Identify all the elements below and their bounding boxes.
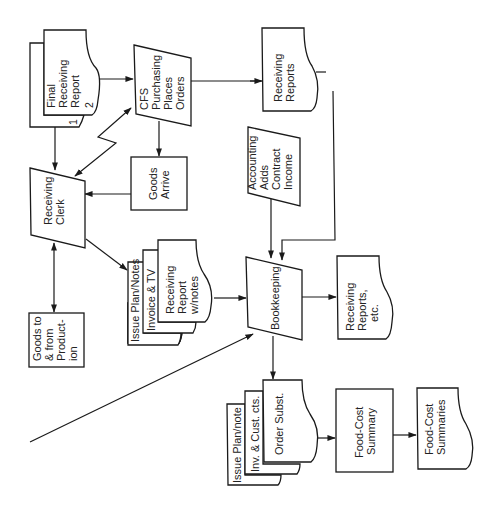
node-label-line: Receiving: [42, 177, 54, 225]
node-label-line: Places: [162, 76, 174, 110]
node-label-line: Report: [69, 75, 81, 108]
node-label-line: Receiving: [164, 266, 176, 314]
node-label-line: Reports: [284, 63, 296, 102]
node-label-line: Orders: [174, 76, 186, 110]
node-receiving-reports-etc[interactable]: Receiving Reports, etc.: [337, 256, 393, 339]
node-label-line: Summary: [365, 407, 377, 455]
node-label-line: Final: [45, 84, 57, 108]
node-label-line: w/notes: [188, 276, 200, 315]
layer-label: Issue Plan/note: [231, 407, 243, 483]
node-food-cost-summary[interactable]: Food-Cost Summary: [336, 389, 393, 472]
node-label-line: Goods to: [31, 316, 43, 361]
layer-label: Invoice & TV: [145, 268, 157, 331]
node-label-line: Arrive: [159, 170, 171, 199]
node-cfs-purchasing[interactable]: CFS Purchasing Places Orders: [134, 45, 191, 126]
node-receiving-reports-top[interactable]: Receiving Reports: [262, 28, 318, 111]
sheet-number-1: 1: [67, 119, 79, 125]
node-receiving-clerk[interactable]: Receiving Clerk: [30, 168, 85, 248]
node-label-line: Summaries: [435, 399, 447, 455]
node-label-line: Receiving: [272, 54, 284, 102]
node-accounting-adds[interactable]: Accounting Adds Contract Income: [246, 127, 300, 206]
node-order-subst-stack[interactable]: Issue Plan/note Inv. & Cust. cts. Order …: [227, 380, 318, 485]
edge-clerk-to-issue: [86, 239, 127, 270]
node-label-line: Goods: [147, 167, 159, 200]
node-label-line: Contract: [270, 148, 282, 190]
node-label-line: Income: [282, 154, 294, 190]
document-layer-order-subst: [263, 380, 318, 462]
node-label-line: & from: [43, 329, 55, 361]
node-label-line: Accounting: [246, 136, 258, 190]
node-label-line: Adds: [258, 164, 270, 190]
node-label-line: 2: [83, 102, 95, 108]
node-bookkeeping[interactable]: Bookkeeping: [246, 257, 302, 340]
node-goods-arrive[interactable]: Goods Arrive: [131, 157, 187, 210]
node-label-line: CFS: [138, 88, 150, 110]
node-label-line: Order Subst.: [273, 393, 285, 455]
node-label-line: Clerk: [54, 199, 66, 225]
layer-label: Issue Plan/Notes: [129, 258, 141, 342]
node-label-line: Receiving: [344, 283, 356, 331]
node-label-line: Reports,: [356, 289, 368, 331]
flowchart-canvas: 1 Final Receiving Report 2 CFS Purchasin…: [0, 0, 499, 518]
node-label-line: ion: [67, 346, 79, 361]
node-label-line: Product-: [55, 319, 67, 361]
node-label-line: Food-Cost: [423, 404, 435, 455]
node-label-line: Receiving: [57, 60, 69, 108]
node-issue-plan-stack[interactable]: Issue Plan/Notes Invoice & TV Receiving …: [128, 240, 212, 345]
node-label-line: Bookkeeping: [269, 266, 281, 330]
node-final-receiving-report[interactable]: 1 Final Receiving Report 2: [30, 30, 100, 127]
node-goods-production[interactable]: Goods to & from Product- ion: [29, 313, 84, 367]
node-label-line: Report: [176, 281, 188, 314]
node-label-line: Food-Cost: [353, 407, 365, 458]
node-food-cost-summaries[interactable]: Food-Cost Summaries: [417, 388, 473, 469]
layer-label: Inv. & Cust. cts.: [249, 396, 261, 472]
node-label-line: etc.: [368, 304, 380, 322]
node-label-line: Purchasing: [150, 55, 162, 110]
